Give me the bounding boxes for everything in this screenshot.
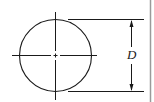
arrow-up-icon xyxy=(130,20,134,27)
arrow-down-icon xyxy=(130,84,134,91)
dimension-label: D xyxy=(127,47,136,63)
